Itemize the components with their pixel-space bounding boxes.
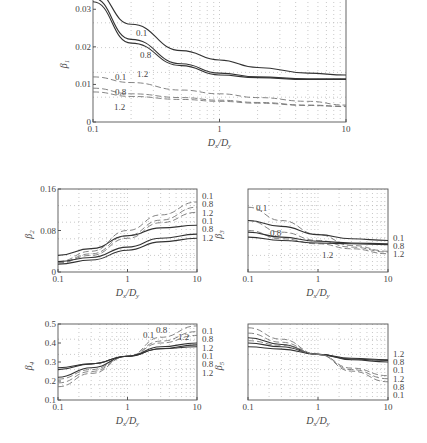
- y-tick-label: 0.5: [45, 319, 57, 329]
- svg-text:1.2: 1.2: [322, 250, 333, 260]
- x-tick-label: 10: [384, 274, 394, 284]
- series-line: [58, 343, 197, 368]
- y-tick-label: 0.1: [45, 395, 56, 405]
- svg-text:1.2: 1.2: [178, 332, 189, 342]
- x-axis-label: Dx/Dy: [115, 287, 140, 300]
- x-tick-label: 1: [125, 402, 130, 412]
- x-tick-label: 10: [384, 402, 394, 412]
- y-tick-label: 0.4: [45, 338, 57, 348]
- y-axis-label: β4: [23, 361, 36, 371]
- chart-beta3: 0.11100.10.81.2β3Dx/Dy: [213, 189, 405, 300]
- y-axis-label: β5: [213, 361, 226, 371]
- svg-text:0.8: 0.8: [270, 228, 282, 238]
- x-tick-label: 10: [193, 402, 203, 412]
- svg-text:0.1: 0.1: [136, 28, 147, 38]
- grid: [58, 324, 197, 400]
- svg-text:0.1: 0.1: [256, 203, 267, 213]
- chart-beta1: 0.111000.010.020.03β1Dx/Dy: [58, 0, 351, 150]
- chart-beta5: 0.11101.20.80.11.20.80.1β5Dx/Dy: [213, 324, 405, 428]
- svg-text:1.2: 1.2: [114, 102, 125, 112]
- svg-text:1.2: 1.2: [137, 69, 148, 79]
- y-axis-label: β1: [58, 60, 71, 69]
- svg-text:0.8: 0.8: [115, 87, 127, 97]
- grid: [93, 0, 346, 122]
- svg-text:0.8: 0.8: [156, 325, 168, 335]
- series-line: [248, 341, 388, 382]
- grid: [248, 189, 388, 272]
- grid: [58, 189, 197, 272]
- y-tick-label: 0: [52, 267, 57, 277]
- x-tick-label: 10: [193, 274, 203, 284]
- svg-text:0.8: 0.8: [140, 50, 152, 60]
- x-tick-label: 1: [316, 274, 321, 284]
- x-axis-label: Dx/Dy: [207, 137, 232, 150]
- series-line: [58, 202, 197, 262]
- svg-text:0.1: 0.1: [143, 330, 154, 340]
- series-line: [93, 0, 346, 75]
- y-tick-label: 0.02: [75, 42, 91, 52]
- svg-text:0.1: 0.1: [115, 72, 126, 82]
- y-tick-label: 0.03: [75, 4, 91, 14]
- y-tick-label: 0.3: [45, 357, 57, 367]
- y-axis-label: β2: [23, 230, 36, 240]
- y-tick-label: 0.08: [40, 226, 56, 236]
- y-axis-label: β3: [213, 230, 226, 240]
- x-tick-label: 1: [217, 124, 222, 134]
- series-line: [93, 2, 346, 80]
- y-tick-label: 0.01: [75, 79, 91, 89]
- series-label: 1.2: [393, 249, 404, 259]
- x-tick-label: 10: [342, 124, 352, 134]
- x-axis-label: Dx/Dy: [305, 287, 330, 300]
- series-label: 1.2: [202, 368, 213, 378]
- y-tick-label: 0.16: [40, 184, 56, 194]
- x-tick-label: 0.1: [242, 274, 253, 284]
- x-tick-label: 0.1: [242, 402, 253, 412]
- grid: [248, 324, 388, 400]
- series-line: [248, 343, 388, 360]
- x-axis-label: Dx/Dy: [115, 415, 140, 428]
- x-axis-label: Dx/Dy: [305, 415, 330, 428]
- series-line: [248, 333, 388, 379]
- y-tick-label: 0.2: [45, 376, 56, 386]
- x-tick-label: 1: [316, 402, 321, 412]
- y-tick-label: 0: [87, 117, 92, 127]
- series-label: 1.2: [202, 233, 213, 243]
- figure: 0.111000.010.020.03β1Dx/Dy0.111000.080.1…: [0, 0, 427, 443]
- x-tick-label: 1: [125, 274, 130, 284]
- series-label: 0.1: [393, 390, 404, 400]
- series-line: [58, 238, 197, 264]
- chart-beta2: 0.111000.080.160.10.81.20.10.81.2β2Dx/Dy: [23, 184, 214, 300]
